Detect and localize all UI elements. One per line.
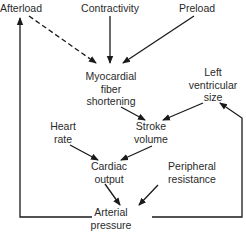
edge-heartrate-cardiac (70, 145, 98, 160)
node-cardiac-output: Cardiac output (91, 160, 127, 185)
edge-cardiac-arterial (105, 184, 120, 205)
diagram-edges (0, 0, 246, 233)
edge-afterload-myocardial (29, 16, 96, 63)
node-preload: Preload (179, 2, 215, 15)
edge-lvsize-stroke (163, 103, 203, 120)
node-left-ventricular-size: Left ventricular size (189, 66, 237, 104)
node-myocardial-fiber-shortening: Myocardial fiber shortening (86, 70, 137, 108)
node-heart-rate: Heart rate (50, 120, 76, 145)
node-arterial-pressure: Arterial pressure (91, 206, 132, 231)
edge-myocardial-stroke (121, 107, 145, 120)
node-contractivity: Contractivity (81, 2, 139, 15)
edge-preload-myocardial (123, 16, 194, 63)
cardiac-regulation-diagram: Afterload Contractivity Preload Myocardi… (0, 0, 246, 233)
edge-arterial-afterload (20, 18, 92, 217)
node-stroke-volume: Stroke volume (134, 120, 168, 145)
edge-stroke-cardiac (121, 146, 152, 160)
node-afterload: Afterload (0, 2, 42, 15)
edge-peripheral-arterial (139, 185, 158, 205)
node-peripheral-resistance: Peripheral resistance (168, 160, 216, 185)
